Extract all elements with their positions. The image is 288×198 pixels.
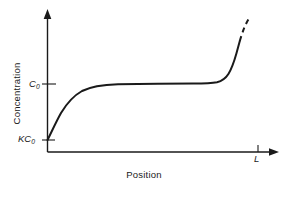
- y-tick-label-c0: C0: [29, 78, 40, 89]
- y-axis-arrowhead: [44, 9, 52, 19]
- x-axis-arrowhead: [269, 148, 279, 155]
- y-axis-title: Concentration: [11, 46, 22, 142]
- y-tick-label-kc0-main: KC: [18, 133, 31, 144]
- y-tick-label-c0-main: C: [29, 78, 36, 89]
- concentration-curve-solid: [48, 41, 240, 140]
- x-axis-title: Position: [94, 169, 194, 180]
- y-tick-label-c0-sub: 0: [36, 83, 40, 90]
- x-tick-label-L: L: [254, 153, 259, 164]
- concentration-curve-dashed: [240, 18, 250, 42]
- y-tick-label-kc0-sub: 0: [31, 138, 35, 145]
- y-tick-label-kc0: KC0: [18, 133, 35, 144]
- concentration-profile-figure: Concentration Position C0 KC0 L: [0, 0, 288, 198]
